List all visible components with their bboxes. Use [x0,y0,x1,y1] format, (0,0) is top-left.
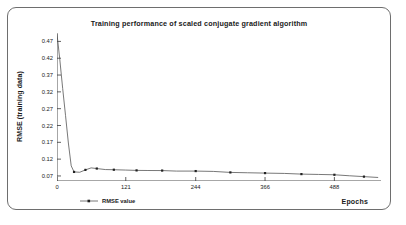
y-tick-label: 0.22 [42,123,53,129]
rmse-data-markers [73,167,365,177]
chart-canvas [57,33,381,181]
x-tick-label: 488 [330,184,340,190]
x-tick-label: 121 [121,184,131,190]
chart-legend: RMSE value [80,198,135,204]
plot-area: 0.070.120.170.220.270.320.370.420.47 012… [57,33,381,181]
y-tick-label: 0.32 [42,89,53,95]
rmse-data-line [57,34,378,177]
y-tick-label: 0.47 [42,38,53,44]
x-tick-label: 0 [55,184,58,190]
y-tick-label: 0.42 [42,55,53,61]
y-tick-label: 0.27 [42,106,53,112]
chart-title: Training performance of scaled conjugate… [8,19,390,28]
y-tick-label: 0.17 [42,139,53,145]
y-axis-title: RMSE (training data) [16,52,23,162]
x-tick-label: 244 [191,184,201,190]
legend-line-marker-icon [80,198,98,204]
y-tick-label: 0.12 [42,156,53,162]
x-tick-label: 366 [260,184,270,190]
y-tick-label: 0.37 [42,72,53,78]
y-tick-label: 0.07 [42,173,53,179]
x-axis-title: Epochs [342,198,368,205]
legend-label-rmse: RMSE value [102,198,135,204]
figure-frame: Training performance of scaled conjugate… [7,7,391,210]
axis-ticks [57,41,334,181]
